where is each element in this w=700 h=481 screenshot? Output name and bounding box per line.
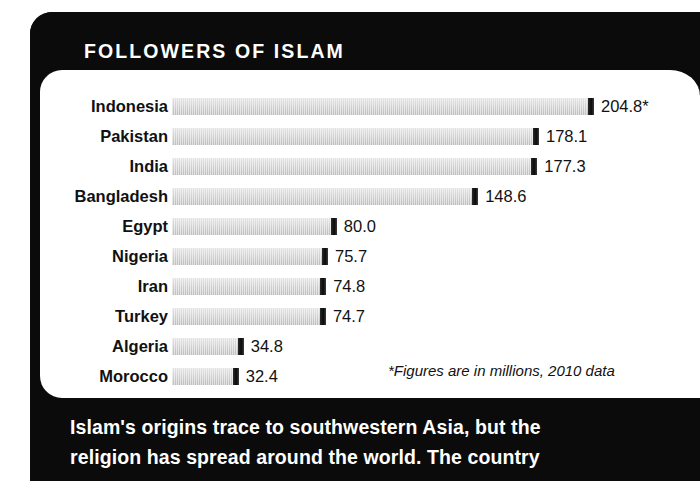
bar-end-cap [320, 278, 326, 295]
bar-category-label: India [28, 155, 168, 177]
bar-category-label: Nigeria [28, 245, 168, 267]
bar-category-label: Egypt [28, 215, 168, 237]
infographic-card: FOLLOWERS OF ISLAM Indonesia204.8*Pakist… [0, 0, 700, 481]
bar-category-label: Bangladesh [28, 185, 168, 207]
caption-line-2: religion has spread around the world. Th… [70, 442, 670, 472]
bar-value-label: 74.8 [333, 275, 365, 297]
chart-row: Indonesia204.8* [40, 95, 700, 117]
bar-fill [172, 128, 533, 145]
chart-row: Algeria34.8 [40, 335, 700, 357]
bar-value-label: 34.8 [251, 335, 283, 357]
bar-value-label: 148.6 [485, 185, 526, 207]
bar-category-label: Algeria [28, 335, 168, 357]
bar-category-label: Iran [28, 275, 168, 297]
bar-value-label: 74.7 [333, 305, 365, 327]
bar-end-cap [233, 368, 239, 385]
caption-line-1: Islam's origins trace to southwestern As… [70, 412, 670, 442]
bar [172, 368, 239, 385]
page-title: FOLLOWERS OF ISLAM [84, 40, 345, 63]
chart-panel: Indonesia204.8*Pakistan178.1India177.3Ba… [36, 66, 700, 402]
bar [172, 248, 328, 265]
chart-row: India177.3 [40, 155, 700, 177]
chart-row: Pakistan178.1 [40, 125, 700, 147]
bar-fill [172, 98, 588, 115]
bar-fill [172, 158, 531, 175]
bar-fill [172, 368, 233, 385]
bar-value-label: 178.1 [546, 125, 587, 147]
bar-end-cap [320, 308, 326, 325]
bar-fill [172, 188, 472, 205]
bar-value-label: 204.8* [601, 95, 649, 117]
bar-category-label: Indonesia [28, 95, 168, 117]
chart-row: Bangladesh148.6 [40, 185, 700, 207]
bar-end-cap [322, 248, 328, 265]
bar-value-label: 80.0 [344, 215, 376, 237]
bar-fill [172, 248, 322, 265]
bar-category-label: Pakistan [28, 125, 168, 147]
bar-end-cap [472, 188, 478, 205]
bar-fill [172, 218, 331, 235]
bar-end-cap [588, 98, 594, 115]
bar-fill [172, 278, 320, 295]
bar-chart: Indonesia204.8*Pakistan178.1India177.3Ba… [40, 70, 700, 406]
chart-row: Nigeria75.7 [40, 245, 700, 267]
bar-fill [172, 338, 238, 355]
bar [172, 98, 594, 115]
bar [172, 128, 539, 145]
bar-value-label: 75.7 [335, 245, 367, 267]
bar [172, 338, 244, 355]
bar-fill [172, 308, 320, 325]
bar-end-cap [331, 218, 337, 235]
chart-footnote: *Figures are in millions, 2010 data [388, 362, 615, 379]
bar-category-label: Turkey [28, 305, 168, 327]
chart-row: Egypt80.0 [40, 215, 700, 237]
bar-end-cap [533, 128, 539, 145]
bar [172, 188, 478, 205]
bar-end-cap [238, 338, 244, 355]
bar-value-label: 32.4 [246, 365, 278, 387]
bar-end-cap [531, 158, 537, 175]
chart-row: Turkey74.7 [40, 305, 700, 327]
bar-value-label: 177.3 [544, 155, 585, 177]
bar [172, 158, 537, 175]
title-tab: FOLLOWERS OF ISLAM [30, 12, 308, 70]
chart-row: Iran74.8 [40, 275, 700, 297]
bar-category-label: Morocco [28, 365, 168, 387]
bar [172, 218, 337, 235]
caption-text: Islam's origins trace to southwestern As… [70, 412, 670, 472]
bar [172, 308, 326, 325]
bar [172, 278, 326, 295]
